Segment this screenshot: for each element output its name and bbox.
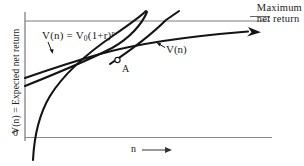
vn-leader-arrow-icon xyxy=(156,43,161,47)
plot-canvas xyxy=(0,0,304,166)
formula-prefix: V(n) = V xyxy=(42,29,84,41)
formula-middle: (1+r) xyxy=(88,29,112,41)
max-return-line-2: net return xyxy=(257,13,302,24)
formula-leader-arrow-icon xyxy=(50,49,54,54)
curve-arrowhead-icon xyxy=(247,27,261,36)
curve-lower-concave xyxy=(25,12,147,86)
annotation-compound-interest-formula: V(n) = V0(1+r)n xyxy=(42,30,115,43)
x-axis-arrow-icon xyxy=(165,147,172,153)
origin-tick-label: 0 xyxy=(13,128,18,139)
annotation-point-a-label: A xyxy=(122,64,129,75)
formula-superscript: n xyxy=(111,29,115,37)
annotation-vn-curve-label: V(n) xyxy=(166,44,187,56)
x-axis-title: n xyxy=(131,144,136,155)
figure-expected-net-return: Maximum net return V(n) = V0(1+r)n V(n) … xyxy=(0,0,304,166)
max-return-line-1: Maximum xyxy=(257,2,302,13)
annotation-maximum-net-return: Maximum net return xyxy=(257,2,302,25)
point-a-marker xyxy=(115,57,120,62)
